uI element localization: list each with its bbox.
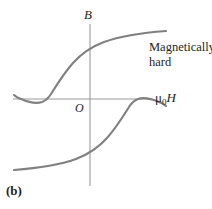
panel-caption: (b) bbox=[6, 183, 22, 198]
mu-symbol: μ bbox=[155, 90, 162, 105]
annotation-line-2: hard bbox=[149, 55, 212, 70]
y-axis-label: B bbox=[84, 7, 92, 22]
annotation-line-1: Magnetically bbox=[149, 40, 212, 54]
curve-annotation: Magneticallyhard bbox=[149, 40, 212, 70]
hysteresis-plot bbox=[0, 0, 212, 209]
hysteresis-figure-panel: B μ0H O Magneticallyhard (b) bbox=[0, 0, 212, 209]
x-axis-label: μ0H bbox=[155, 90, 176, 107]
h-symbol: H bbox=[166, 90, 175, 105]
origin-label: O bbox=[75, 101, 84, 115]
